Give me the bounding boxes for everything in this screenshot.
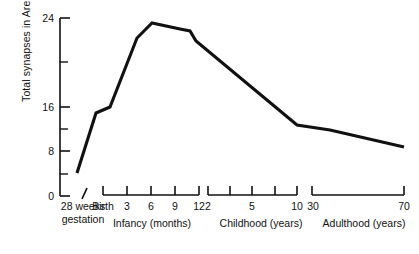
y-tick-label-24: 24	[30, 12, 54, 24]
x-group-caption-childhood: Childhood (years)	[205, 217, 317, 229]
x-group-caption-infancy: Infancy (months)	[96, 217, 208, 229]
x-tick-label-70y: 70	[393, 200, 415, 212]
y-tick-label-8: 8	[30, 145, 54, 157]
y-tick-label-16: 16	[30, 101, 54, 113]
axis-break-mark	[82, 188, 87, 199]
x-tick-label-5y: 5	[242, 200, 262, 212]
x-tick-label-30y: 30	[302, 200, 324, 212]
x-group-caption-adulthood: Adulthood (years)	[308, 217, 419, 229]
x-tick-label-3mo: 3	[115, 200, 139, 212]
x-tick-label-6mo: 6	[139, 200, 163, 212]
x-tick-label-2y: 2	[198, 200, 218, 212]
x-tick-label-9mo: 9	[163, 200, 187, 212]
synapse-curve	[77, 23, 404, 173]
